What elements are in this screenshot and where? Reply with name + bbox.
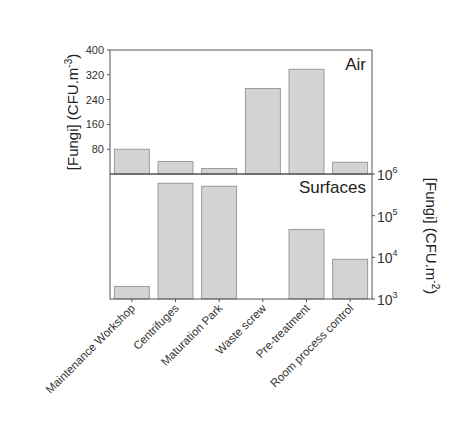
y-tick-label: 240	[86, 94, 104, 106]
y-tick-label: 106	[377, 165, 398, 183]
surfaces-panel-label: Surfaces	[299, 178, 366, 197]
y-tick-label: 104	[377, 248, 398, 266]
air-bar	[245, 88, 280, 174]
air-panel: 80160240320400	[86, 44, 372, 174]
chart-figure: 80160240320400 103104105106 Maintenance …	[0, 0, 467, 436]
y-tick-label: 400	[86, 44, 104, 56]
surfaces-bar	[158, 183, 193, 299]
x-category-label: Maintenance Workshop	[43, 302, 137, 396]
surfaces-bar	[114, 286, 149, 299]
x-category-label: Room process control	[268, 302, 356, 390]
y-tick-label: 320	[86, 69, 104, 81]
y-tick-label: 160	[86, 118, 104, 130]
y-tick-label: 105	[377, 207, 398, 225]
air-panel-label: Air	[345, 55, 366, 74]
air-bar	[114, 149, 149, 174]
y-tick-label: 80	[92, 143, 104, 155]
y-tick-label: 103	[377, 290, 398, 308]
surfaces-bar	[202, 186, 237, 299]
left-y-axis-title: [Fungi] (CFU.m-3)	[63, 54, 81, 170]
air-bar	[289, 69, 324, 174]
air-bar	[202, 168, 237, 174]
air-bar	[333, 162, 368, 174]
air-bar	[158, 162, 193, 174]
x-axis: Maintenance WorkshopCentrifugesMaturatio…	[43, 299, 355, 396]
surfaces-bar	[289, 229, 324, 299]
surfaces-bar	[333, 259, 368, 299]
right-y-axis-title: [Fungi] (CFU.m-2)	[423, 178, 441, 294]
